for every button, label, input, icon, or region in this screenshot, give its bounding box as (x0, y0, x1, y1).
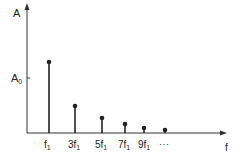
x-tick-label: 9f1 (138, 140, 150, 151)
y-axis-label: A (13, 8, 20, 19)
x-tick-label: 7f1 (118, 140, 130, 151)
stem-dot (47, 60, 52, 65)
ellipsis-label: · · · (159, 140, 168, 149)
stem-dot (142, 126, 147, 131)
x-tick-label: 3f1 (68, 140, 80, 151)
x-axis-label: f (225, 143, 228, 153)
a0-sub: 0 (18, 78, 22, 85)
x-tick-label: 5f1 (95, 140, 107, 151)
stem-dot (73, 104, 78, 109)
stem-series (47, 60, 168, 133)
y-axis-arrow-icon (25, 3, 30, 10)
stem-dot (100, 116, 105, 121)
a0-label: A0 (11, 73, 22, 85)
x-tick-label: f1 (44, 140, 51, 151)
x-axis-arrow-icon (220, 131, 227, 136)
stem-dot (163, 128, 168, 133)
spectrum-chart (0, 0, 240, 157)
stem-dot (123, 122, 128, 127)
